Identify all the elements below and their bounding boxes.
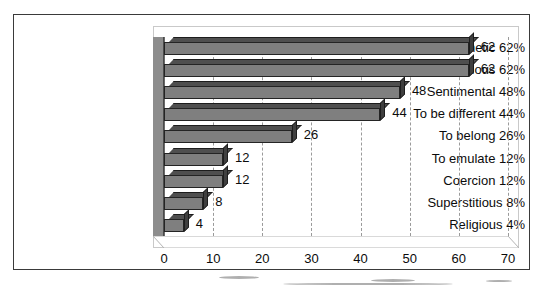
chart-floor-3d [153, 236, 519, 248]
bar[interactable]: 4 [164, 214, 190, 236]
bar-value-label: 44 [392, 105, 406, 120]
bar-top-face [169, 37, 479, 42]
bar-front-face [164, 153, 223, 166]
bar-end-cap [223, 143, 228, 166]
bar-end-cap [469, 54, 474, 77]
bar-value-label: 12 [235, 150, 249, 165]
bar-front-face [164, 219, 184, 232]
bar-value-label: 8 [215, 194, 222, 209]
bar[interactable]: 62 [164, 37, 475, 59]
bar[interactable]: 26 [164, 125, 298, 147]
bar-top-face [169, 59, 479, 64]
plot-area: 6262484426121284 [153, 26, 519, 248]
bar-value-label: 4 [196, 216, 203, 231]
bar-top-face [169, 125, 302, 130]
bar-value-label: 48 [412, 83, 426, 98]
bar[interactable]: 62 [164, 59, 475, 81]
bar-front-face [164, 197, 203, 210]
bar-value-label: 26 [304, 127, 318, 142]
bar-end-cap [400, 76, 405, 99]
x-tick-label-30: 30 [304, 251, 318, 266]
bar[interactable]: 12 [164, 148, 229, 170]
bar-end-cap [292, 121, 297, 144]
x-tick-label-70: 70 [501, 251, 515, 266]
bar[interactable]: 44 [164, 103, 386, 125]
bar-end-cap [203, 187, 208, 210]
bar-front-face [164, 86, 400, 99]
bar-top-face [169, 214, 193, 219]
x-tick-label-50: 50 [402, 251, 416, 266]
bar-top-face [169, 81, 410, 86]
bar-value-label: 62 [481, 61, 495, 76]
chart-figure: Aesthetic 62%Rebellious 62%Sentimental 4… [13, 14, 530, 270]
x-tick-label-40: 40 [353, 251, 367, 266]
bar-front-face [164, 42, 469, 55]
scan-artifact [486, 280, 512, 282]
bar[interactable]: 48 [164, 81, 406, 103]
bar-end-cap [380, 98, 385, 121]
bar-end-cap [223, 165, 228, 188]
scan-artifact [283, 283, 453, 285]
x-tick-label-60: 60 [452, 251, 466, 266]
bar-front-face [164, 64, 469, 77]
bar-front-face [164, 108, 380, 121]
scan-artifact [371, 279, 415, 282]
bar-top-face [169, 103, 390, 108]
bar-front-face [164, 175, 223, 188]
chart-left-wall-3d [153, 37, 164, 236]
x-tick-label-20: 20 [255, 251, 269, 266]
x-tick-label-10: 10 [206, 251, 220, 266]
bar[interactable]: 12 [164, 170, 229, 192]
gridline-70 [508, 37, 509, 236]
scan-artifact [219, 276, 259, 279]
bar-end-cap [469, 32, 474, 55]
bar-value-label: 62 [481, 39, 495, 54]
x-tick-label-0: 0 [160, 251, 167, 266]
bar-value-label: 12 [235, 172, 249, 187]
bar-end-cap [184, 209, 189, 232]
